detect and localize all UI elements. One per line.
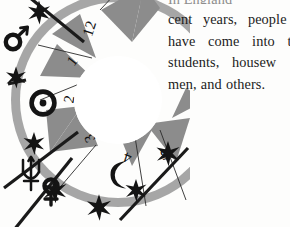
- wheel-center-disc: [74, 56, 162, 144]
- astrological-chart-wheel: 12 1 2 3 4 5: [0, 0, 190, 227]
- text-line-clipped: In England: [168, 0, 290, 4]
- text-line-1: cent years, people: [168, 9, 290, 31]
- text-line-3: students, housew: [168, 52, 290, 74]
- text-line-2: have come into t: [168, 31, 290, 53]
- text-line-4: men, and others.: [168, 74, 290, 96]
- scanned-book-page: 12 1 2 3 4 5: [0, 0, 290, 227]
- body-text-block: In England cent years, people have come …: [168, 0, 290, 120]
